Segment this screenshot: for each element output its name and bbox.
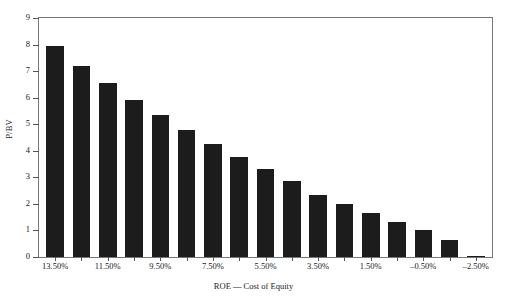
x-axis-tick-mark (344, 257, 345, 261)
bar-slot (410, 18, 436, 257)
bar (46, 46, 64, 257)
bar (441, 240, 459, 257)
bar (336, 204, 354, 257)
bar (415, 230, 433, 257)
bar (362, 213, 380, 257)
bar (152, 115, 170, 257)
x-axis-title: ROE — Cost of Equity (0, 281, 507, 291)
bar-slot (279, 18, 305, 257)
bar-slot (436, 18, 462, 257)
bar-slot (147, 18, 173, 257)
x-axis-tick-mark (81, 257, 82, 261)
bar (73, 66, 91, 257)
x-axis-tick-mark (292, 257, 293, 261)
x-axis-tick-label: –2.50% (446, 262, 506, 271)
bar-slot (226, 18, 252, 257)
y-axis-tick-label: 1 (4, 225, 30, 234)
y-axis-tick-label: 8 (4, 40, 30, 49)
x-axis-tick-mark (134, 257, 135, 261)
x-axis-tick-label: 5.50% (236, 262, 296, 271)
bar-slot (384, 18, 410, 257)
bar-slot (121, 18, 147, 257)
bar-slot (252, 18, 278, 257)
bar-slot (95, 18, 121, 257)
y-axis-tick-mark (33, 257, 39, 258)
y-axis-tick-label: 6 (4, 93, 30, 102)
x-axis-tick-mark (187, 257, 188, 261)
y-axis-tick-label: 2 (4, 199, 30, 208)
bar (230, 157, 248, 257)
bar (388, 222, 406, 257)
bar-slot (173, 18, 199, 257)
bar-slot (358, 18, 384, 257)
x-axis-tick-mark (450, 257, 451, 261)
bar (204, 144, 222, 257)
bar-slot (305, 18, 331, 257)
bar-slot (463, 18, 489, 257)
x-axis-tick-label: 9.50% (130, 262, 190, 271)
bar-slot (42, 18, 68, 257)
bar-slot (68, 18, 94, 257)
y-axis-tick-label: 3 (4, 172, 30, 181)
y-axis-tick-label: 7 (4, 66, 30, 75)
y-axis-tick-label: 4 (4, 146, 30, 155)
x-axis-tick-mark (397, 257, 398, 261)
bar (99, 83, 117, 257)
bar-slot (331, 18, 357, 257)
bar (257, 169, 275, 257)
bar (125, 100, 143, 257)
x-axis-tick-mark (239, 257, 240, 261)
x-axis-tick-label: 11.50% (78, 262, 138, 271)
x-axis-tick-label: 13.50% (25, 262, 85, 271)
bar-chart: P/BV 9876543210 13.50%11.50%9.50%7.50%5.… (0, 0, 507, 302)
bar (283, 181, 301, 257)
x-axis-tick-label: 7.50% (183, 262, 243, 271)
bar (178, 130, 196, 257)
y-axis-tick-label: 0 (4, 252, 30, 261)
y-axis-tick-label: 5 (4, 119, 30, 128)
bar-slot (200, 18, 226, 257)
x-axis-tick-label: 3.50% (288, 262, 348, 271)
x-axis-tick-label: 1.50% (341, 262, 401, 271)
y-axis-tick-label: 9 (4, 13, 30, 22)
bar-series (39, 18, 492, 257)
x-axis-tick-label: –0.50% (393, 262, 453, 271)
bar (309, 195, 327, 257)
